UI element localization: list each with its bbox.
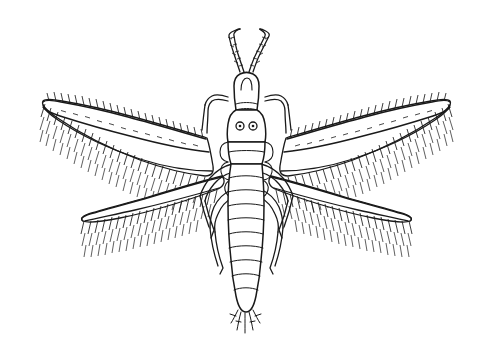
right-eye-pupil bbox=[252, 125, 255, 128]
terminal-bristle-4 bbox=[249, 312, 253, 330]
pterothorax-plate bbox=[228, 142, 265, 164]
left-hindwing-membrane bbox=[82, 176, 224, 222]
right-thorax-lobe-1 bbox=[265, 142, 273, 162]
left-eye-pupil bbox=[239, 125, 242, 128]
right-antenna-shaft bbox=[253, 29, 269, 72]
right-hindwing-fringe-row-3 bbox=[295, 220, 409, 257]
left-hindleg-tarsus bbox=[215, 232, 223, 274]
abdomen bbox=[228, 164, 264, 333]
right-antenna bbox=[249, 29, 269, 72]
right-foreleg-tibia bbox=[288, 105, 291, 130]
left-hindwing-fringe-row-3 bbox=[84, 220, 198, 257]
prothorax-plate bbox=[227, 110, 266, 142]
antennae-group bbox=[228, 29, 269, 72]
thrips-figure bbox=[0, 0, 493, 351]
terminal-bristles bbox=[230, 310, 261, 333]
terminal-bristle-8 bbox=[236, 321, 241, 322]
right-foreleg bbox=[265, 95, 291, 133]
right-hindwing-membrane bbox=[269, 176, 411, 222]
prothorax bbox=[227, 110, 266, 142]
thrips-illustration bbox=[0, 0, 493, 351]
left-antenna-shaft-outer bbox=[234, 29, 244, 72]
left-forewing-membrane bbox=[43, 100, 214, 177]
left-antenna bbox=[228, 29, 244, 72]
head bbox=[234, 73, 259, 111]
abdomen-outline bbox=[228, 164, 264, 312]
left-thorax-lobe-1 bbox=[220, 142, 228, 162]
right-foreleg-outer-edge bbox=[265, 100, 286, 134]
left-foreleg-tibia bbox=[202, 105, 205, 130]
left-foreleg bbox=[202, 95, 228, 133]
right-forewing-membrane bbox=[280, 100, 451, 177]
right-hindleg-tarsus bbox=[270, 232, 278, 274]
left-foreleg-outer-edge bbox=[207, 100, 228, 134]
